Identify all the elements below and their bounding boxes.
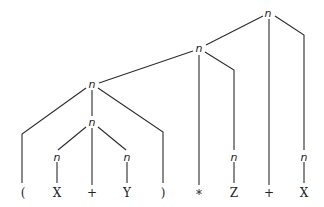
node-nX2: n: [301, 151, 308, 164]
node-root: n: [265, 7, 272, 20]
node-n4: n: [89, 116, 96, 129]
parse-tree-diagram: n n n n n n n n ( X + Y ) * Z + X: [0, 0, 324, 207]
leaf-asterisk: *: [196, 188, 202, 202]
leaf-x-2: X: [300, 186, 309, 200]
node-nX: n: [54, 151, 61, 164]
leaf-open-paren: (: [21, 186, 26, 200]
tree-edges: [22, 16, 304, 185]
leaf-plus-2: +: [264, 186, 274, 200]
node-n3: n: [89, 78, 96, 91]
leaf-close-paren: ): [161, 186, 166, 200]
leaf-x: X: [53, 186, 62, 200]
leaf-y: Y: [122, 186, 132, 200]
leaf-plus: +: [87, 186, 97, 200]
leaf-z: Z: [230, 186, 238, 200]
node-n2: n: [196, 42, 203, 55]
node-nZ: n: [231, 151, 238, 164]
tree-leaves: ( X + Y ) * Z + X: [21, 186, 309, 202]
node-nY: n: [124, 151, 131, 164]
